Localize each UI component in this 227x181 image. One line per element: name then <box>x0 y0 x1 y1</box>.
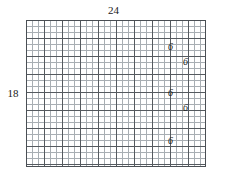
segment-label-3: 6 <box>168 88 173 98</box>
figure-canvas: 24 18 6 6 6 6 6 <box>0 0 227 181</box>
segment-label-1: 6 <box>168 42 173 52</box>
segment-label-5: 6 <box>168 136 173 146</box>
segment-label-4: 6 <box>183 103 188 113</box>
top-dimension-label: 24 <box>0 5 227 16</box>
grid-paper <box>26 20 206 167</box>
left-dimension-label: 18 <box>2 88 24 99</box>
segment-label-2: 6 <box>183 57 188 67</box>
